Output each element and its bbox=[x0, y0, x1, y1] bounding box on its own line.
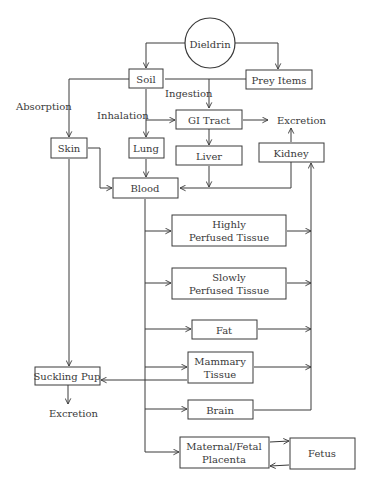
label-excretion-pup: Excretion bbox=[49, 408, 98, 419]
node-label-line2: Perfused Tissue bbox=[189, 232, 269, 243]
node-suckling-pup: Suckling Pup bbox=[34, 367, 101, 385]
node-dieldrin: Dieldrin bbox=[185, 18, 235, 68]
label-ingestion: Ingestion bbox=[165, 88, 213, 99]
node-label: Blood bbox=[131, 183, 161, 194]
node-slowly-perfused-tissue: Slowly Perfused Tissue bbox=[172, 268, 286, 299]
node-label: Fetus bbox=[308, 448, 336, 459]
node-label: Dieldrin bbox=[189, 39, 231, 50]
node-highly-perfused-tissue: Highly Perfused Tissue bbox=[172, 215, 286, 246]
node-fat: Fat bbox=[192, 320, 257, 339]
node-label: Fat bbox=[216, 325, 232, 336]
node-label-line1: Mammary bbox=[194, 356, 246, 367]
node-blood: Blood bbox=[113, 178, 178, 198]
node-mammary-tissue: Mammary Tissue bbox=[188, 352, 253, 383]
label-absorption: Absorption bbox=[15, 101, 72, 112]
node-skin: Skin bbox=[51, 138, 87, 158]
dieldrin-pbpk-diagram: Dieldrin Soil Prey Items GI Tract Skin L… bbox=[0, 0, 372, 486]
node-label-line2: Placenta bbox=[202, 454, 246, 465]
node-kidney: Kidney bbox=[259, 143, 324, 162]
node-lung: Lung bbox=[129, 138, 164, 158]
node-fetus: Fetus bbox=[290, 438, 355, 469]
node-label: Suckling Pup bbox=[34, 371, 101, 382]
node-label: Soil bbox=[136, 74, 155, 85]
node-prey-items: Prey Items bbox=[246, 70, 312, 89]
edge-soil-skin bbox=[69, 79, 129, 137]
node-label: Brain bbox=[206, 405, 234, 416]
node-soil: Soil bbox=[129, 69, 163, 88]
node-label: Kidney bbox=[273, 148, 308, 159]
node-maternal-fetal-placenta: Maternal/Fetal Placenta bbox=[180, 437, 269, 468]
node-label-line1: Maternal/Fetal bbox=[186, 441, 261, 452]
node-label-line2: Tissue bbox=[204, 369, 237, 380]
node-label: Lung bbox=[133, 143, 160, 154]
node-label: Prey Items bbox=[252, 75, 307, 86]
node-label-line1: Highly bbox=[212, 219, 246, 230]
node-gi-tract: GI Tract bbox=[176, 110, 242, 129]
node-brain: Brain bbox=[188, 400, 253, 419]
node-label: Liver bbox=[196, 151, 222, 162]
edge-dieldrin-prey bbox=[235, 43, 278, 69]
node-liver: Liver bbox=[176, 146, 242, 165]
edge-skin-blood bbox=[88, 148, 112, 188]
node-label-line1: Slowly bbox=[212, 272, 246, 283]
edge-fetus-placenta bbox=[270, 465, 289, 466]
node-label-line2: Perfused Tissue bbox=[189, 285, 269, 296]
node-label: GI Tract bbox=[188, 115, 230, 126]
edge-placenta-fetus bbox=[270, 441, 289, 442]
edge-kidney-blood bbox=[180, 162, 291, 188]
label-excretion-gi: Excretion bbox=[277, 115, 326, 126]
node-label: Skin bbox=[58, 143, 81, 154]
label-inhalation: Inhalation bbox=[97, 110, 149, 121]
edge-dieldrin-soil bbox=[146, 43, 185, 68]
